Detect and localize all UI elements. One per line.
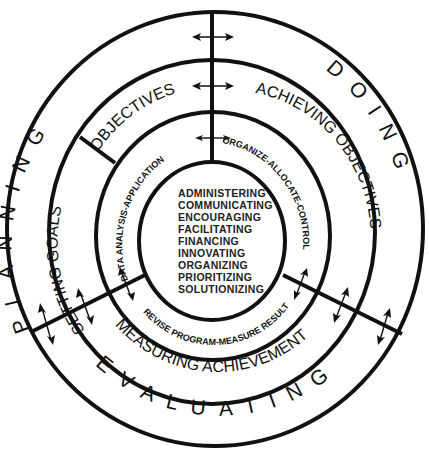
management-cycle-diagram: PLANNING DOING EVALUATING SETTING GOALS … (0, 0, 429, 457)
label-setting-goals: SETTING GOALS (44, 204, 88, 338)
core-item: ORGANIZING (178, 259, 248, 271)
core-item: PRIORITIZING (178, 271, 252, 283)
double-arrow-icon (294, 268, 308, 300)
core-item: SOLUTIONIZING (178, 283, 264, 295)
double-arrow-icon (38, 303, 55, 345)
core-item: INNOVATING (178, 247, 245, 259)
core-item: ADMINISTERING (178, 187, 266, 199)
core-item: COMMUNICATING (178, 199, 273, 211)
label-objectives: OBJECTIVES (86, 80, 176, 154)
core-activities-list: ADMINISTERING COMMUNICATING ENCOURAGING … (178, 187, 273, 295)
core-item: ENCOURAGING (178, 211, 261, 223)
core-item: FACILITATING (178, 223, 252, 235)
core-item: FINANCING (178, 235, 239, 247)
